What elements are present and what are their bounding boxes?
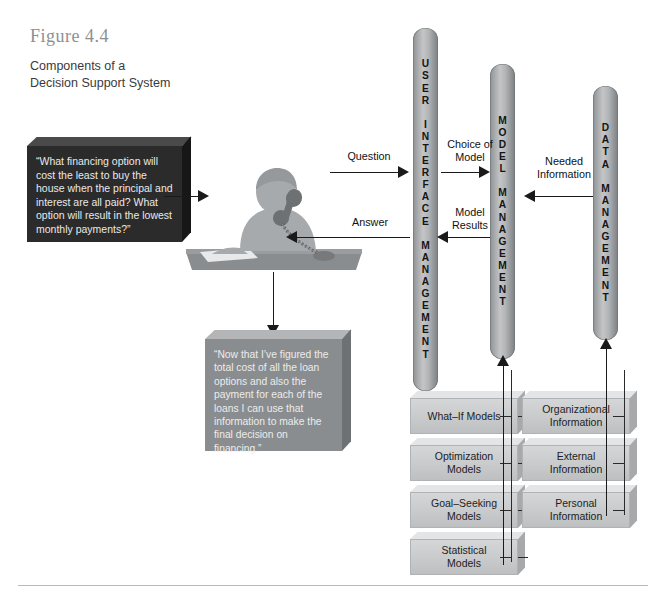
pillar-data-management: D A T A M A N A G E M E N T	[593, 86, 618, 340]
flow-label-needed-information: Needed Information	[526, 155, 602, 181]
flow-arrowhead-needed-information	[524, 190, 535, 202]
figure-canvas: Figure 4.4 Components of a Decision Supp…	[0, 0, 666, 603]
data-bus-arrowhead	[600, 338, 612, 349]
data-bus-stub-external	[613, 463, 624, 464]
box-external-information-top	[522, 438, 638, 445]
model-bus-stub-optimization-left	[500, 463, 511, 464]
data-bus-stub-personal	[613, 510, 624, 511]
model-bus-stub-goal-seeking-left	[500, 510, 511, 511]
pillar-user-interface-management-label: U S E R I N T E R F A C E M A N A G E M …	[421, 58, 430, 360]
flow-line-needed-information	[533, 196, 593, 197]
flow-arrowhead-model-results	[437, 231, 448, 243]
box-personal-information-top	[522, 485, 638, 492]
flow-arrowhead-question	[398, 166, 409, 178]
flow-line-answer	[295, 237, 410, 238]
box-statistical-models-side	[518, 531, 525, 575]
desk-to-thought-connector-line	[273, 272, 274, 327]
question-box-top-face	[27, 137, 192, 146]
data-bus-spine	[624, 370, 625, 515]
flow-line-model-results	[446, 237, 490, 238]
figure-number: Figure 4.4	[30, 26, 109, 47]
box-external-information-side	[630, 437, 637, 481]
model-bus-spine	[511, 370, 512, 562]
box-what-if-models-top	[410, 391, 526, 398]
answer-box-text: “Now that I’ve figured the total cost of…	[205, 339, 342, 451]
model-bus-arrowhead	[497, 355, 509, 366]
flow-label-question: Question	[333, 150, 405, 163]
answer-box-top-face	[205, 330, 352, 339]
person-at-desk-illustration	[178, 148, 370, 278]
box-organizational-information-side	[630, 390, 637, 434]
flow-line-question	[330, 172, 400, 173]
bottom-divider	[18, 585, 648, 586]
box-personal-information-side	[630, 484, 637, 528]
flow-arrowhead-answer	[286, 231, 297, 243]
box-goal-seeking-models-top	[410, 485, 526, 492]
flow-label-choice-of-model: Choice of Model	[440, 138, 500, 164]
figure-title: Components of a Decision Support System	[30, 58, 250, 92]
flow-arrowhead-choice-of-model	[479, 166, 490, 178]
pillar-user-interface-management: U S E R I N T E R F A C E M A N A G E M …	[413, 28, 438, 391]
data-bus-stub-organizational	[613, 416, 624, 417]
box-organizational-information-top	[522, 391, 638, 398]
flow-label-model-results: Model Results	[440, 206, 500, 232]
model-bus-stub-what-if-left	[500, 416, 511, 417]
question-speech-box: “What financing option will cost the lea…	[27, 146, 182, 242]
box-statistical-models-top	[410, 532, 526, 539]
answer-thought-box: “Now that I’ve figured the total cost of…	[205, 339, 342, 451]
flow-label-answer: Answer	[336, 216, 404, 229]
pillar-data-management-label: D A T A M A N A G E M E N T	[601, 122, 610, 303]
model-bus-stub-statistical-left	[500, 557, 511, 558]
model-bus-stub-statistical	[518, 557, 528, 558]
answer-box-side-face	[342, 329, 351, 451]
box-optimization-models-top	[410, 438, 526, 445]
data-bus-riser	[606, 348, 607, 516]
model-bus-riser	[503, 365, 504, 565]
question-box-text: “What financing option will cost the lea…	[27, 146, 182, 242]
